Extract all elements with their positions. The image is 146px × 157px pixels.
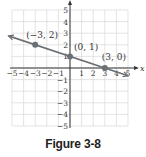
x-tick-label: −3	[30, 69, 41, 78]
y-tick-label: 3	[63, 29, 68, 38]
y-tick-label: −2	[57, 87, 68, 96]
y-axis-arrow-icon	[68, 0, 72, 5]
y-tick-label: −5	[57, 122, 68, 131]
y-tick-label: 5	[63, 6, 68, 15]
x-axis-label: x	[140, 64, 145, 73]
point-label: (3, 0)	[102, 52, 126, 62]
point-label: (0, 1)	[74, 42, 98, 52]
coordinate-plane: x −5−4−3−2−11234554321−1−2−3−4−5 (−3, 2)…	[0, 0, 146, 132]
y-tick-label: −1	[57, 76, 68, 85]
y-tick-label: −3	[57, 99, 68, 108]
x-tick-label: −4	[18, 69, 29, 78]
x-tick-label: −5	[6, 69, 17, 78]
x-tick-label: 4	[114, 69, 119, 78]
data-point	[102, 65, 108, 71]
y-tick-label: −4	[57, 110, 68, 119]
y-tick-label: 4	[63, 18, 68, 27]
figure-caption: Figure 3-8	[0, 137, 146, 151]
axes: x	[10, 0, 145, 128]
x-tick-label: −2	[41, 69, 52, 78]
data-point	[67, 53, 73, 59]
data-point	[32, 42, 38, 48]
x-axis-arrow-icon	[134, 66, 139, 70]
x-tick-label: 1	[79, 69, 84, 78]
x-tick-label: 2	[91, 69, 96, 78]
y-tick-label: 2	[63, 41, 68, 50]
plotted-points: (−3, 2)(0, 1)(3, 0)	[26, 30, 126, 71]
point-label: (−3, 2)	[26, 30, 58, 40]
